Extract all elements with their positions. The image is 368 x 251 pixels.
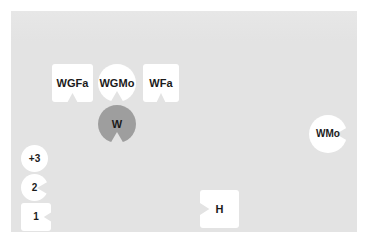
- node-label: WFa: [149, 78, 173, 89]
- node-wfa[interactable]: WFa: [143, 64, 179, 102]
- node-label: 1: [33, 212, 39, 222]
- node-wmo[interactable]: WMo: [309, 115, 347, 153]
- node-notch-icon: [110, 132, 124, 144]
- node-label: 2: [32, 183, 38, 193]
- node-one[interactable]: 1: [21, 203, 51, 231]
- node-label: W: [112, 119, 122, 130]
- node-label: WGMo: [99, 78, 134, 89]
- diagram-canvas[interactable]: WGFaWGMoWFaWWMo+321H: [11, 11, 357, 232]
- diagram-stage: WGFaWGMoWFaWWMo+321H: [0, 0, 368, 251]
- node-wgmo[interactable]: WGMo: [98, 64, 136, 102]
- node-label: WGFa: [56, 78, 88, 89]
- node-plus3[interactable]: +3: [21, 145, 48, 172]
- node-label: H: [215, 204, 223, 215]
- node-h[interactable]: H: [200, 190, 239, 228]
- node-two[interactable]: 2: [21, 174, 48, 201]
- node-notch-icon: [37, 181, 49, 195]
- node-label: WMo: [316, 129, 340, 139]
- node-w[interactable]: W: [98, 105, 136, 143]
- node-notch-icon: [110, 91, 124, 103]
- node-label: +3: [29, 154, 41, 164]
- node-wgfa[interactable]: WGFa: [52, 64, 93, 102]
